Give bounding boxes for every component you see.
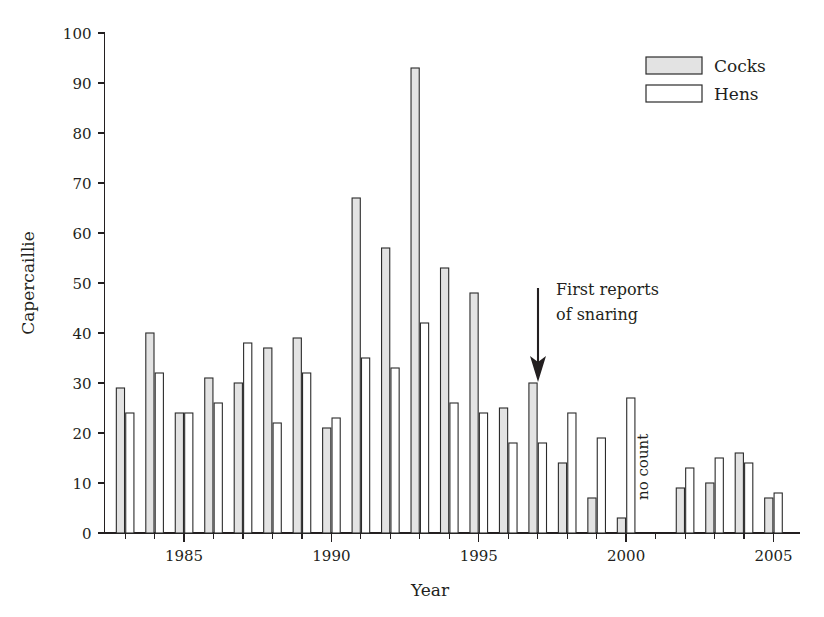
- bar-hens-1999: [597, 438, 605, 533]
- bar-cocks-2000: [617, 518, 625, 533]
- y-tick-label-100: 100: [63, 25, 92, 43]
- bar-cocks-1997: [529, 383, 537, 533]
- y-tick-label-70: 70: [72, 175, 91, 193]
- bar-cocks-1991: [352, 198, 360, 533]
- bar-hens-1988: [273, 423, 281, 533]
- bar-cocks-1986: [205, 378, 213, 533]
- bar-cocks-1992: [382, 248, 390, 533]
- bar-cocks-1999: [588, 498, 596, 533]
- y-tick-label-0: 0: [82, 525, 92, 543]
- y-axis-ticks: 0102030405060708090100: [63, 25, 105, 543]
- bar-cocks-1994: [441, 268, 449, 533]
- y-tick-label-30: 30: [72, 375, 91, 393]
- y-axis-title: Capercaillie: [18, 231, 38, 335]
- bar-hens-1984: [155, 373, 163, 533]
- bar-hens-1990: [332, 418, 340, 533]
- y-tick-label-10: 10: [72, 475, 91, 493]
- y-tick-label-90: 90: [72, 75, 91, 93]
- y-tick-label-40: 40: [72, 325, 91, 343]
- bar-hens-1993: [420, 323, 428, 533]
- bar-hens-1991: [361, 358, 369, 533]
- y-tick-label-80: 80: [72, 125, 91, 143]
- y-tick-label-50: 50: [72, 275, 91, 293]
- bar-cocks-1990: [323, 428, 331, 533]
- bar-hens-1992: [391, 368, 399, 533]
- no-count-label: no count: [634, 434, 652, 500]
- bar-hens-1997: [538, 443, 546, 533]
- bar-cocks-2005: [765, 498, 773, 533]
- bar-cocks-1983: [116, 388, 124, 533]
- bar-hens-2002: [686, 468, 694, 533]
- bar-hens-1989: [303, 373, 311, 533]
- bar-hens-2005: [774, 493, 782, 533]
- legend-swatch-cocks: [646, 57, 702, 74]
- bar-cocks-2004: [735, 453, 743, 533]
- x-tick-label-1990: 1990: [312, 547, 350, 565]
- x-tick-label-1985: 1985: [165, 547, 203, 565]
- legend-label-cocks: Cocks: [714, 56, 766, 76]
- snaring-annotation-line2: of snaring: [556, 305, 638, 324]
- chart-canvas: 0102030405060708090100 19851990199520002…: [0, 0, 824, 617]
- bar-cocks-1984: [146, 333, 154, 533]
- chart-legend: Cocks Hens: [646, 56, 766, 104]
- bar-hens-2003: [715, 458, 723, 533]
- bar-cocks-2002: [676, 488, 684, 533]
- bar-hens-1983: [126, 413, 134, 533]
- bar-cocks-1996: [499, 408, 507, 533]
- bar-hens-1996: [509, 443, 517, 533]
- x-axis-title: Year: [410, 580, 450, 600]
- bar-group: [116, 68, 782, 533]
- bar-cocks-1995: [470, 293, 478, 533]
- x-tick-label-2000: 2000: [607, 547, 645, 565]
- x-tick-label-2005: 2005: [754, 547, 792, 565]
- y-tick-label-60: 60: [72, 225, 91, 243]
- y-tick-label-20: 20: [72, 425, 91, 443]
- legend-label-hens: Hens: [714, 84, 759, 104]
- snaring-annotation: First reports of snaring: [530, 280, 659, 382]
- bar-hens-1986: [214, 403, 222, 533]
- capercaillie-bar-chart: 0102030405060708090100 19851990199520002…: [0, 0, 824, 617]
- bar-cocks-2003: [706, 483, 714, 533]
- x-axis-ticks: 19851990199520002005: [125, 533, 792, 565]
- x-tick-label-1995: 1995: [460, 547, 498, 565]
- bar-hens-1995: [479, 413, 487, 533]
- legend-swatch-hens: [646, 85, 702, 102]
- bar-cocks-1998: [558, 463, 566, 533]
- bar-hens-1985: [185, 413, 193, 533]
- snaring-annotation-line1: First reports: [556, 280, 659, 299]
- bar-cocks-1993: [411, 68, 419, 533]
- bar-hens-1987: [244, 343, 252, 533]
- bar-cocks-1987: [234, 383, 242, 533]
- bar-hens-2004: [745, 463, 753, 533]
- bar-hens-1998: [568, 413, 576, 533]
- bar-cocks-1989: [293, 338, 301, 533]
- bar-cocks-1988: [264, 348, 272, 533]
- bar-hens-1994: [450, 403, 458, 533]
- bar-cocks-1985: [175, 413, 183, 533]
